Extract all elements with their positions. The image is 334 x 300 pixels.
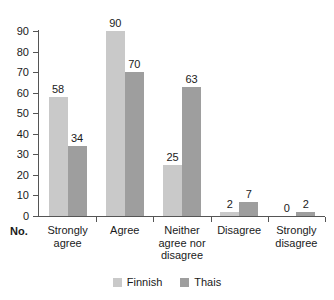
bar-thais-2 (182, 87, 201, 217)
y-axis-tick (33, 195, 38, 196)
bar-finnish-2 (163, 165, 182, 216)
bar-value-label: 90 (100, 18, 130, 29)
y-axis-tick (33, 154, 38, 155)
y-axis-tick (33, 72, 38, 73)
bar-thais-4 (296, 212, 315, 216)
x-axis-tick (211, 217, 212, 222)
bar-finnish-3 (220, 212, 239, 216)
y-axis-tick (33, 113, 38, 114)
bar-thais-0 (68, 146, 87, 216)
x-axis-category-label: Neitheragree nordisagree (149, 224, 215, 262)
category-label-line: Strongly (263, 224, 329, 237)
legend-label: Finnish (127, 277, 162, 288)
bar-value-label: 70 (119, 59, 149, 70)
y-axis-tick-label: 40 (0, 129, 29, 140)
legend-label: Thais (194, 277, 221, 288)
category-label-line: Disagree (206, 224, 272, 237)
x-axis-tick (96, 217, 97, 222)
y-axis-tick-label: 60 (0, 88, 29, 99)
bar-value-label: 58 (43, 84, 73, 95)
y-axis-tick-label: 20 (0, 170, 29, 181)
category-label-line: Agree (92, 224, 158, 237)
bar-value-label: 34 (62, 133, 92, 144)
x-axis-title: No. (10, 225, 28, 238)
category-label-line: agree nor (149, 237, 215, 250)
x-axis-line (38, 216, 325, 217)
category-label-line: Strongly (35, 224, 101, 237)
bar-finnish-0 (49, 97, 68, 216)
y-axis-tick (33, 134, 38, 135)
category-label-line: agree (35, 237, 101, 250)
chart-legend: FinnishThais (0, 277, 334, 288)
y-axis-tick-label: 50 (0, 108, 29, 119)
legend-swatch-icon (180, 278, 189, 287)
x-axis-tick (153, 217, 154, 222)
y-axis-tick-label: 0 (0, 211, 29, 222)
bar-value-label: 63 (177, 74, 207, 85)
y-axis-tick-label: 30 (0, 149, 29, 160)
y-axis-tick-label: 70 (0, 67, 29, 78)
x-axis-category-label: Stronglyagree (35, 224, 101, 249)
plot-area: 5834907025632702 (39, 31, 325, 216)
y-axis-tick (33, 52, 38, 53)
y-axis-tick-label: 10 (0, 190, 29, 201)
y-axis-tick-label: 90 (0, 26, 29, 37)
y-axis-tick (33, 31, 38, 32)
bar-chart: 0102030405060708090 5834907025632702 Str… (0, 0, 334, 300)
legend-item: Thais (180, 277, 221, 288)
legend-item: Finnish (113, 277, 162, 288)
y-axis-tick (33, 93, 38, 94)
x-axis-category-label: Disagree (206, 224, 272, 237)
x-axis-tick (268, 217, 269, 222)
bar-value-label: 7 (234, 189, 264, 200)
legend-swatch-icon (113, 278, 122, 287)
x-axis-tick (325, 217, 326, 222)
bar-thais-1 (125, 72, 144, 216)
y-axis-tick-label: 80 (0, 47, 29, 58)
category-label-line: disagree (263, 237, 329, 250)
x-axis-category-label: Stronglydisagree (263, 224, 329, 249)
y-axis-tick (33, 216, 38, 217)
x-axis-category-label: Agree (92, 224, 158, 237)
y-axis-tick (33, 175, 38, 176)
bar-value-label: 2 (291, 199, 321, 210)
category-label-line: disagree (149, 249, 215, 262)
bar-thais-3 (239, 202, 258, 216)
category-label-line: Neither (149, 224, 215, 237)
